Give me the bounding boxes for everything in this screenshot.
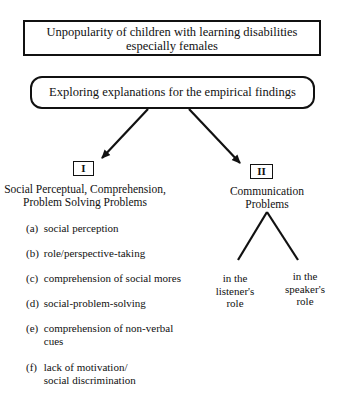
item-letter: (e): [26, 322, 41, 335]
exploring-explanations-label: Exploring explanations for the empirical…: [49, 85, 296, 99]
list-item: (b) role/perspective-taking: [26, 247, 145, 260]
list-item: (d) social-problem-solving: [26, 297, 146, 310]
list-item: (a) social perception: [26, 222, 119, 235]
item-letter: (d): [26, 297, 41, 310]
item-text-continued: cues: [44, 335, 174, 348]
item-letter: (a): [26, 222, 41, 235]
tree-line-speaker: [267, 212, 298, 260]
item-text: comprehension of social mores: [44, 272, 181, 284]
branch-1-heading-line-1: Social Perceptual, Comprehension,: [0, 183, 170, 196]
branch-2-numeral: II: [257, 165, 266, 177]
arrow-to-branch-2: [189, 109, 240, 163]
item-text: role/perspective-taking: [44, 247, 145, 259]
branch-1-numeral-box: I: [73, 161, 94, 176]
unpopularity-line-1: Unpopularity of children with learning d…: [25, 25, 319, 39]
list-item: (f) lack of motivation/ social discrimin…: [26, 361, 136, 386]
item-text: social perception: [44, 222, 119, 234]
tree-line-listener: [238, 212, 267, 260]
list-item: (c) comprehension of social mores: [26, 272, 181, 285]
branch-1-numeral: I: [81, 162, 85, 174]
leaf-line: listener's: [205, 285, 265, 298]
leaf-line: role: [275, 295, 335, 308]
branch-2-heading-line-1: Communication: [217, 185, 317, 198]
arrow-to-branch-1: [102, 109, 148, 158]
leaf-line: role: [205, 297, 265, 310]
item-letter: (f): [26, 361, 41, 374]
exploring-explanations-box: Exploring explanations for the empirical…: [30, 76, 315, 109]
item-letter: (b): [26, 247, 41, 260]
branch-2-heading-line-2: Problems: [217, 198, 317, 211]
item-text: lack of motivation/: [44, 361, 136, 374]
branch-2-heading: Communication Problems: [217, 185, 317, 211]
leaf-line: in the: [275, 270, 335, 283]
item-letter: (c): [26, 272, 41, 285]
leaf-listener-role: in the listener's role: [205, 272, 265, 310]
leaf-speaker-role: in the speaker's role: [275, 270, 335, 308]
branch-1-heading: Social Perceptual, Comprehension, Proble…: [0, 183, 170, 209]
unpopularity-box: Unpopularity of children with learning d…: [23, 20, 321, 56]
item-text-continued: social discrimination: [44, 374, 136, 387]
list-item: (e) comprehension of non-verbal cues: [26, 322, 173, 347]
branch-1-heading-line-2: Problem Solving Problems: [0, 196, 170, 209]
unpopularity-line-2: especially females: [25, 39, 319, 53]
item-text: social-problem-solving: [44, 297, 146, 309]
leaf-line: speaker's: [275, 283, 335, 296]
branch-2-numeral-box: II: [250, 164, 273, 179]
item-text: comprehension of non-verbal: [44, 322, 174, 335]
leaf-line: in the: [205, 272, 265, 285]
